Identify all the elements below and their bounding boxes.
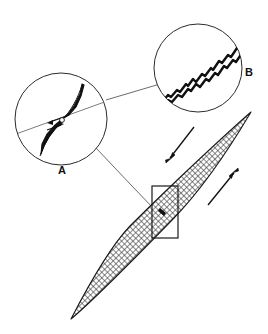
inset-circle-b	[154, 24, 242, 112]
inset-label-b: B	[245, 66, 253, 78]
inset-label-a: A	[58, 164, 66, 176]
scientific-figure: A B	[0, 0, 268, 334]
inset-a-kink-node	[60, 118, 65, 123]
figure-root: A B	[0, 0, 268, 334]
